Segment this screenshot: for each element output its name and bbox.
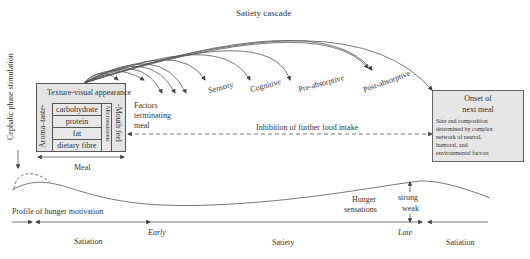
factors-label-3: meal xyxy=(134,122,150,130)
nutrient-stack: carbohydrate protein fat dietary fibre xyxy=(52,103,102,152)
hunger-sensations-label-1: Hunger xyxy=(352,196,376,204)
meal-span-label: Meal xyxy=(74,164,90,172)
micronutrients-label: Micronutrients xyxy=(105,106,111,142)
factors-label-1: Factors xyxy=(134,102,158,110)
hunger-profile-label: Profile of hunger motivation xyxy=(12,208,103,216)
phase-satiation-1: Satiation xyxy=(74,238,102,246)
inhibition-label: Inhibition of further food intake xyxy=(256,124,358,132)
onset-body-4: humoral, and xyxy=(436,142,468,148)
onset-title-2: next meal xyxy=(433,106,523,114)
nutrient-fat: fat xyxy=(52,128,102,140)
hunger-sensations-label-2: sensations xyxy=(344,206,377,214)
weak-label: weak xyxy=(402,205,419,213)
factors-label-2: terminating xyxy=(134,112,171,120)
aroma-taste-label: Aroma–taste- xyxy=(38,104,47,148)
onset-body-1: Size and composition xyxy=(436,118,488,124)
mouth-feel-label: -Mouth feel xyxy=(114,104,122,142)
marker-early: Early xyxy=(148,229,166,237)
cephalic-phase-label: Cephalic phase stimulation xyxy=(6,53,15,140)
onset-body-2: determined by complex xyxy=(436,126,493,132)
strong-label: strong xyxy=(398,194,418,202)
nutrient-dietary-fibre: dietary fibre xyxy=(52,140,102,152)
onset-next-meal-box: Onset of next meal Size and composition … xyxy=(432,90,524,162)
phase-satiety: Satiety xyxy=(272,239,294,247)
nutrient-protein: protein xyxy=(52,116,102,128)
marker-late: Late xyxy=(398,229,412,237)
onset-title-1: Onset of xyxy=(433,95,523,103)
nutrient-carbohydrate: carbohydrate xyxy=(52,103,102,116)
onset-body-3: network of neutral, xyxy=(436,134,482,140)
texture-visual-label: Texture-visual appearance xyxy=(47,89,131,97)
phase-satiation-2: Satiation xyxy=(446,239,474,247)
onset-body-5: environmental factors xyxy=(436,150,488,156)
satiety-cascade-title: Satiety cascade xyxy=(236,9,291,18)
